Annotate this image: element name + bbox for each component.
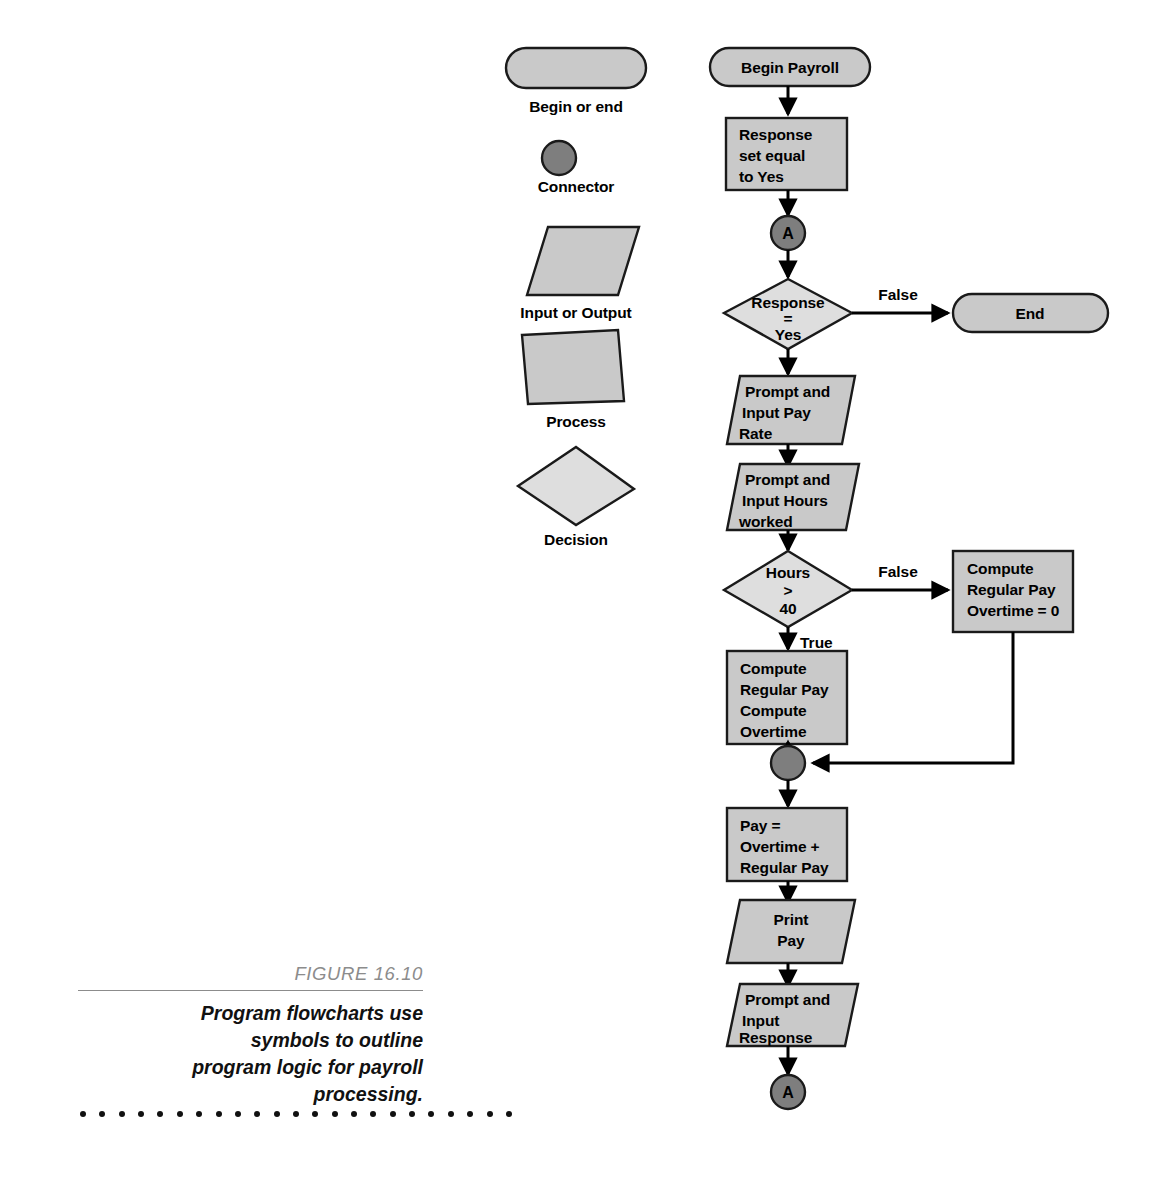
node-decision-hours-line-2: > [784,582,793,599]
branch-label-false-response: False [878,286,918,303]
caption-dot [332,1111,338,1117]
caption-dot [177,1111,183,1117]
node-input-pay-rate-line-2: Input Pay [742,404,811,421]
node-print-pay: Print Pay [727,900,855,963]
caption-dot [274,1111,280,1117]
node-decision-response-line-2: = [784,310,793,327]
node-pay-total-line-2: Overtime + [740,838,820,855]
node-input-pay-rate-line-3: Rate [739,425,773,442]
node-begin: Begin Payroll [710,48,870,86]
node-decision-hours: Hours > 40 [724,551,852,627]
node-compute-overtime-line-1: Compute [740,660,807,677]
legend-label-parallelogram: Input or Output [520,304,631,321]
caption-dot [119,1111,125,1117]
caption-dot [448,1111,454,1117]
caption-dot [293,1111,299,1117]
caption-dot [487,1111,493,1117]
node-connector-a-bottom-label: A [782,1084,794,1101]
caption-dot [157,1111,163,1117]
caption-dot-rule [80,1111,512,1117]
caption-dot [216,1111,222,1117]
node-compute-regular-line-2: Regular Pay [967,581,1056,598]
node-set-response-line-2: set equal [739,147,805,164]
caption-dot [99,1111,105,1117]
caption-dot [390,1111,396,1117]
node-compute-overtime-line-4: Overtime [740,723,807,740]
caption-dot [138,1111,144,1117]
node-input-response: Prompt and Input Response [727,984,858,1046]
node-pay-total-line-3: Regular Pay [740,859,829,876]
node-input-hours-line-2: Input Hours [742,492,828,509]
node-print-pay-line-2: Pay [777,932,805,949]
caption-dot [351,1111,357,1117]
legend-group: Begin or end Connector Input or Output P… [506,48,646,548]
node-compute-regular-line-3: Overtime = 0 [967,602,1059,619]
node-connector-a-top: A [771,216,805,250]
node-set-response-line-3: to Yes [739,168,784,185]
node-begin-label: Begin Payroll [741,59,839,76]
figure-caption-block: FIGURE 16.10 Program flowcharts use symb… [78,963,423,1108]
node-input-hours-line-1: Prompt and [745,471,830,488]
node-end: End [953,294,1108,332]
caption-dot [312,1111,318,1117]
caption-dot [370,1111,376,1117]
node-pay-total: Pay = Overtime + Regular Pay [727,808,847,881]
node-connector-a-top-label: A [782,225,794,242]
node-compute-regular-line-1: Compute [967,560,1034,577]
figure-number: FIGURE 16.10 [78,963,423,990]
caption-dot [506,1111,512,1117]
node-pay-total-line-1: Pay = [740,817,780,834]
branch-label-false-hours: False [878,563,918,580]
caption-dot [235,1111,241,1117]
legend-label-connector: Connector [538,178,615,195]
node-end-label: End [1016,305,1045,322]
node-decision-response-line-3: Yes [775,326,801,343]
figure-page: Begin or end Connector Input or Output P… [0,0,1169,1179]
legend-label-rectangle: Process [546,413,606,430]
node-connector-merge [771,746,805,780]
node-set-response-line-1: Response [739,126,813,143]
node-connector-a-bottom: A [771,1075,805,1109]
node-decision-response-line-1: Response [751,294,825,311]
legend-label-diamond: Decision [544,531,608,548]
node-input-hours: Prompt and Input Hours worked [727,464,859,530]
node-compute-overtime: Compute Regular Pay Compute Overtime [727,651,847,744]
caption-dot [80,1111,86,1117]
node-input-response-line-1: Prompt and [745,991,830,1008]
caption-dot [428,1111,434,1117]
node-input-response-line-2: Input [742,1012,779,1029]
node-compute-regular: Compute Regular Pay Overtime = 0 [953,551,1073,632]
figure-caption-text: Program flowcharts use symbols to outlin… [78,991,423,1108]
node-print-pay-line-1: Print [774,911,809,928]
node-set-response: Response set equal to Yes [726,118,847,190]
caption-line: symbols to outline [78,1027,423,1054]
legend-symbol-parallelogram [527,227,639,295]
node-decision-hours-line-1: Hours [766,564,810,581]
node-decision-response: Response = Yes [724,279,852,349]
node-compute-overtime-line-3: Compute [740,702,807,719]
node-compute-overtime-line-2: Regular Pay [740,681,829,698]
legend-symbol-connector [542,141,576,175]
caption-dot [196,1111,202,1117]
node-input-response-line-3: Response [739,1029,813,1046]
caption-line: program logic for payroll [78,1054,423,1081]
node-input-pay-rate: Prompt and Input Pay Rate [727,376,855,444]
legend-symbol-terminal [506,48,646,88]
caption-line: processing. [78,1081,423,1108]
caption-dot [254,1111,260,1117]
caption-dot [467,1111,473,1117]
node-input-pay-rate-line-1: Prompt and [745,383,830,400]
caption-dot [409,1111,415,1117]
legend-symbol-diamond [518,447,634,525]
node-input-hours-line-3: worked [738,513,793,530]
caption-line: Program flowcharts use [78,1000,423,1027]
node-decision-hours-line-3: 40 [779,600,796,617]
branch-label-true-hours: True [800,634,833,651]
legend-label-terminal: Begin or end [529,98,623,115]
legend-symbol-rectangle [522,330,624,404]
